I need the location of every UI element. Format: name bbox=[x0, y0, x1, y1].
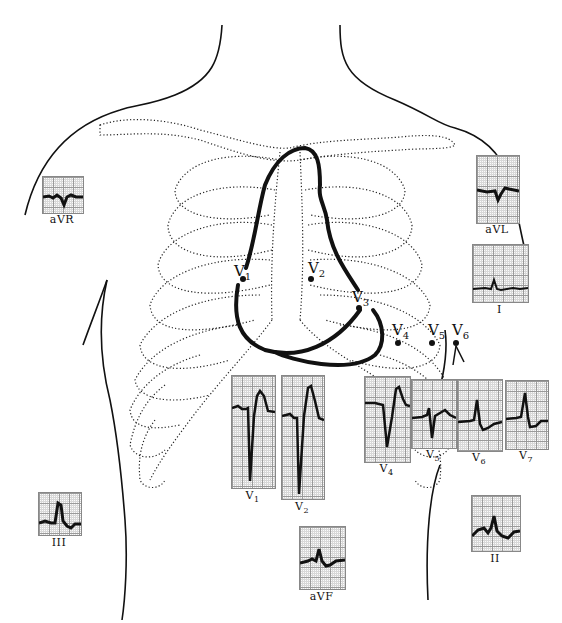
electrode-label-sub: 1 bbox=[245, 271, 251, 282]
ecg-trace-v1 bbox=[232, 376, 275, 488]
ecg-trace-avr bbox=[43, 177, 83, 213]
ecg-trace-iii bbox=[39, 493, 81, 535]
electrode-label-sub: 6 bbox=[463, 330, 469, 341]
lead-label-v5: V5 bbox=[411, 448, 455, 463]
ecg-trace-v6 bbox=[458, 380, 502, 451]
ecg-trace-v7 bbox=[506, 381, 548, 449]
ecg-trace-avl bbox=[477, 156, 519, 223]
electrode-label-text: V bbox=[452, 321, 463, 339]
ecg-lead-placement-diagram: V1 V2 V3 V4 V5 V6 aVR aVL I III aVF II V… bbox=[0, 0, 562, 623]
lead-label-sub: 1 bbox=[254, 495, 260, 504]
ecg-trace-avf bbox=[300, 527, 345, 589]
ecg-strip-v7 bbox=[505, 380, 549, 450]
electrode-label-v6: V6 bbox=[452, 321, 469, 341]
ecg-strip-avf bbox=[299, 526, 346, 590]
electrode-label-text: V bbox=[234, 262, 245, 280]
ecg-strip-i bbox=[472, 244, 529, 303]
ecg-trace-v2 bbox=[282, 376, 324, 499]
electrode-label-sub: 2 bbox=[319, 268, 325, 279]
ecg-trace-v5 bbox=[412, 380, 456, 448]
ecg-strip-v6 bbox=[457, 379, 503, 452]
lead-label-sub: 6 bbox=[480, 457, 486, 466]
heart-silhouette bbox=[236, 148, 382, 365]
v6-leader-line bbox=[453, 346, 464, 365]
ecg-strip-iii bbox=[38, 492, 82, 536]
lead-label-avl: aVL bbox=[476, 223, 518, 236]
electrode-label-text: V bbox=[428, 321, 439, 339]
ecg-trace-v4 bbox=[365, 377, 410, 462]
lead-label-v4: V4 bbox=[364, 462, 409, 477]
lead-label-avr: aVR bbox=[42, 213, 82, 226]
lead-label-text: V bbox=[379, 462, 387, 475]
lead-label-text: V bbox=[245, 489, 253, 502]
electrode-label-sub: 5 bbox=[439, 330, 445, 341]
lead-label-sub: 4 bbox=[388, 468, 394, 477]
electrode-label-text: V bbox=[392, 321, 403, 339]
lead-label-v2: V2 bbox=[281, 500, 323, 515]
lead-label-v7: V7 bbox=[505, 449, 547, 464]
electrode-label-v1: V1 bbox=[234, 262, 251, 282]
electrode-label-v5: V5 bbox=[428, 321, 445, 341]
lead-label-v6: V6 bbox=[457, 451, 501, 466]
ecg-strip-v5 bbox=[411, 379, 457, 449]
ecg-strip-v2 bbox=[281, 375, 325, 500]
lead-label-avf: aVF bbox=[299, 590, 344, 603]
ecg-strip-ii bbox=[471, 495, 521, 552]
electrode-label-sub: 3 bbox=[363, 297, 369, 308]
electrode-label-v4: V4 bbox=[392, 321, 409, 341]
lead-label-sub: 5 bbox=[434, 454, 440, 463]
lead-label-v1: V1 bbox=[231, 489, 274, 504]
lead-label-sub: 2 bbox=[303, 506, 309, 515]
ecg-strip-v1 bbox=[231, 375, 276, 489]
electrode-label-sub: 4 bbox=[403, 330, 409, 341]
lead-label-ii: II bbox=[471, 552, 519, 565]
ecg-trace-i bbox=[473, 245, 528, 302]
electrode-label-v2: V2 bbox=[308, 259, 325, 279]
ecg-strip-v4 bbox=[364, 376, 411, 463]
ecg-strip-avl bbox=[476, 155, 520, 224]
electrode-label-text: V bbox=[352, 288, 363, 306]
lead-label-sub: 7 bbox=[527, 455, 533, 464]
body-outline bbox=[25, 25, 525, 620]
ecg-strip-avr bbox=[42, 176, 84, 214]
electrode-label-text: V bbox=[308, 259, 319, 277]
lead-label-iii: III bbox=[38, 536, 80, 549]
lead-label-i: I bbox=[472, 303, 527, 316]
electrode-label-v3: V3 bbox=[352, 288, 369, 308]
ecg-trace-ii bbox=[472, 496, 520, 551]
